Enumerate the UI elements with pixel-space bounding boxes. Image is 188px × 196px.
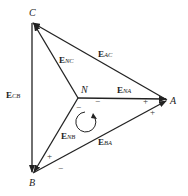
vertex-n: N [81,85,88,95]
label-ecb: ECB [6,91,20,100]
label-enb: ENB [61,132,75,141]
sign-minus-nb: − [76,103,81,112]
edge-ac [33,23,167,100]
label-ena: ENA [117,86,131,95]
sign-plus-nb: + [47,152,52,161]
sign-plus-na: + [143,97,148,106]
label-eba: EBA [98,138,112,147]
edge-na [78,98,166,99]
vertex-a: A [170,96,176,106]
label-enc: ENC [59,56,74,65]
label-eac: EAC [98,50,112,59]
phasor-diagram [0,0,188,196]
sign-plus-ba: + [150,108,155,117]
sign-minus-ba: − [58,164,63,173]
vertex-b: B [29,178,35,188]
vertex-c: C [29,8,36,18]
sign-minus-na: − [95,97,100,106]
